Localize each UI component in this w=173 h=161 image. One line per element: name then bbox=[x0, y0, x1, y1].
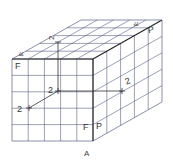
label-top-back-right-f: F bbox=[132, 21, 143, 26]
label-top-center-2: 2 bbox=[47, 35, 56, 40]
label-right-center-2: 2 bbox=[123, 76, 131, 87]
label-top-back-right-p: P bbox=[147, 24, 155, 35]
axes bbox=[26, 42, 125, 111]
label-front-center-2: 2 bbox=[48, 85, 53, 95]
label-right-bottom-left-p: P bbox=[96, 121, 102, 131]
top-face-grid bbox=[26, 20, 148, 59]
cube-diagram: F F P 2 2 2 2 F F P A bbox=[0, 0, 173, 161]
front-face-grid bbox=[12, 59, 93, 141]
label-top-front-left-f: F bbox=[17, 51, 28, 56]
figure-caption: A bbox=[84, 149, 90, 158]
label-front-axis-end-2: 2 bbox=[17, 104, 22, 114]
label-front-bottom-right-f: F bbox=[83, 122, 89, 132]
label-front-top-left: F bbox=[15, 61, 21, 71]
